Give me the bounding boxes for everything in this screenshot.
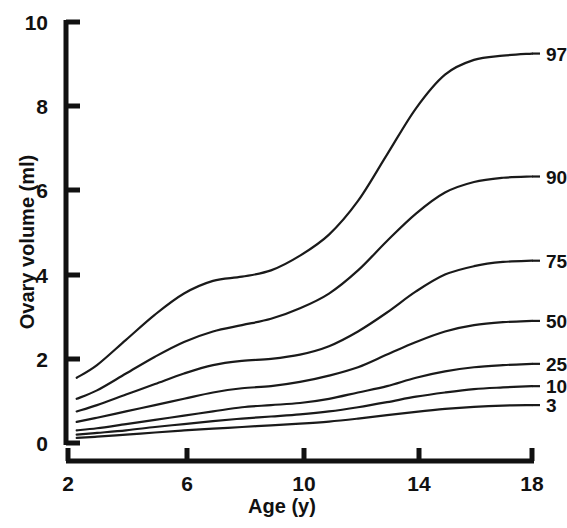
percentile-curve-97 bbox=[77, 54, 532, 378]
y-tick-label-0: 0 bbox=[4, 433, 48, 454]
x-tick-label-18: 18 bbox=[520, 473, 543, 494]
series-label-75: 75 bbox=[546, 251, 567, 270]
x-axis-title: Age (y) bbox=[0, 496, 564, 516]
series-label-10: 10 bbox=[546, 377, 567, 396]
x-tick-label-14: 14 bbox=[407, 473, 430, 494]
percentile-curve-90 bbox=[77, 177, 532, 399]
series-label-97: 97 bbox=[546, 44, 567, 63]
percentile-curve-25 bbox=[77, 364, 532, 431]
x-tick-label-6: 6 bbox=[181, 473, 193, 494]
y-axis-title: Ovary volume (ml) bbox=[17, 127, 37, 357]
series-label-25: 25 bbox=[546, 354, 567, 373]
y-tick-label-8: 8 bbox=[4, 96, 48, 117]
percentile-curve-10 bbox=[77, 386, 532, 434]
series-label-3: 3 bbox=[546, 396, 557, 415]
percentile-curve-75 bbox=[77, 261, 532, 412]
x-tick-label-10: 10 bbox=[292, 473, 315, 494]
percentile-curves bbox=[77, 54, 532, 438]
series-leader-lines bbox=[532, 54, 540, 406]
y-tick-label-10: 10 bbox=[4, 12, 48, 33]
series-label-90: 90 bbox=[546, 167, 567, 186]
x-tick-label-2: 2 bbox=[62, 473, 74, 494]
series-label-50: 50 bbox=[546, 311, 567, 330]
